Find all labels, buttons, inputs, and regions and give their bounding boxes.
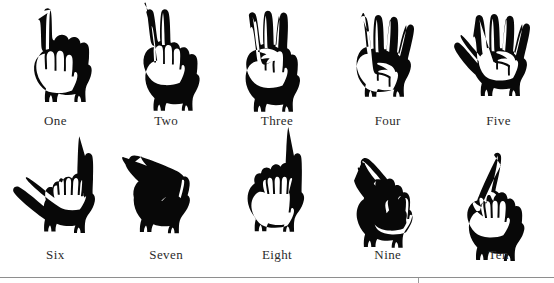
hand-sign-nine-icon xyxy=(348,150,428,242)
sign-label-one: One xyxy=(44,114,67,127)
hand-sign-six-icon xyxy=(3,150,107,242)
sign-label-seven: Seven xyxy=(149,248,183,261)
bottom-divider-rule xyxy=(0,277,554,278)
sign-cell-seven[interactable]: Seven xyxy=(111,142,221,283)
sign-label-ten: Ten xyxy=(488,248,509,261)
sign-label-nine: Nine xyxy=(374,248,401,261)
hand-sign-seven-icon xyxy=(116,150,216,242)
hand-sign-four-icon xyxy=(345,4,430,108)
sign-row-bottom: Six Seven Eight xyxy=(0,142,554,283)
hand-sign-ten-icon xyxy=(460,150,538,242)
sign-cell-five[interactable]: Five xyxy=(444,0,554,142)
sign-cell-ten[interactable]: Ten xyxy=(444,142,554,283)
hand-sign-one-icon xyxy=(21,4,90,108)
sign-cell-eight[interactable]: Eight xyxy=(222,142,332,283)
hand-sign-five-icon xyxy=(451,4,546,108)
sign-label-two: Two xyxy=(154,114,178,127)
sign-cell-three[interactable]: Three xyxy=(222,0,332,142)
sign-label-three: Three xyxy=(261,114,293,127)
sign-cell-six[interactable]: Six xyxy=(0,142,110,283)
sign-cell-one[interactable]: One xyxy=(0,0,110,142)
sign-label-five: Five xyxy=(486,114,511,127)
sign-cell-four[interactable]: Four xyxy=(333,0,443,142)
hand-sign-three-icon xyxy=(235,4,318,108)
sign-label-four: Four xyxy=(375,114,401,127)
bottom-divider-tick xyxy=(418,278,419,283)
sign-row-top: One Two Three xyxy=(0,0,554,142)
sign-cell-two[interactable]: Two xyxy=(111,0,221,142)
hand-sign-two-icon xyxy=(128,4,205,108)
hand-sign-eight-icon xyxy=(235,150,319,242)
sign-label-eight: Eight xyxy=(262,248,292,261)
sign-cell-nine[interactable]: Nine xyxy=(333,142,443,283)
asl-number-chart: One Two Three xyxy=(0,0,554,283)
sign-label-six: Six xyxy=(46,248,65,261)
